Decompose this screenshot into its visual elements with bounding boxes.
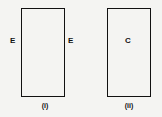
caption-ii: (ii) — [117, 102, 141, 110]
caption-i: (i) — [33, 102, 57, 110]
label-right-edge: E — [68, 37, 73, 45]
label-center: C — [125, 37, 131, 45]
rectangle-i — [21, 8, 65, 97]
label-left-edge: E — [10, 37, 15, 45]
rectangle-ii — [107, 8, 151, 97]
